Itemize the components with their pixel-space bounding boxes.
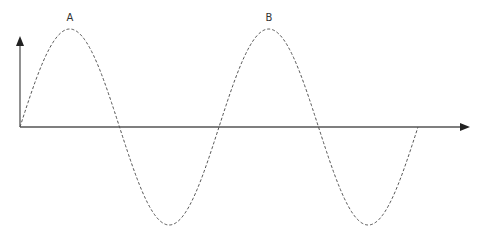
- y-axis-arrow-icon: [16, 36, 24, 46]
- peak-label-a: A: [67, 12, 74, 23]
- wave-diagram: A B: [0, 0, 478, 236]
- x-axis-arrow-icon: [460, 123, 470, 131]
- peak-label-b: B: [266, 12, 273, 23]
